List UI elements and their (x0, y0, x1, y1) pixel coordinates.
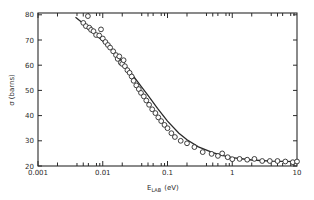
data-point (209, 152, 214, 157)
x-tick-label: 0.01 (95, 169, 111, 177)
y-axis-label: σ (barns) (8, 74, 16, 106)
x-tick-label: 10 (293, 169, 302, 177)
x-tick-label: 0.1 (162, 169, 173, 177)
plot-frame (38, 13, 297, 166)
data-point (147, 102, 152, 107)
data-point (275, 159, 280, 164)
data-point (267, 159, 272, 164)
data-point (131, 78, 136, 83)
data-point (178, 138, 183, 143)
data-point (260, 159, 265, 164)
data-point (117, 54, 122, 59)
y-tick-label: 70 (25, 37, 34, 45)
x-axis-label: ELAB(eV) (147, 184, 179, 193)
x-tick-label: 1 (230, 169, 234, 177)
data-point (237, 157, 242, 162)
data-point (86, 14, 91, 19)
cross-section-chart: 20304050607080 0.0010.010.1110 σ (barns)… (0, 0, 314, 200)
data-point (283, 159, 288, 164)
fit-line (76, 17, 298, 161)
data-point (220, 151, 225, 156)
y-axis: 20304050607080 (25, 11, 297, 170)
data-point (295, 159, 300, 164)
chart-svg: 20304050607080 0.0010.010.1110 σ (barns)… (0, 0, 314, 200)
data-point (99, 27, 104, 32)
fit-curve (76, 17, 298, 161)
data-point (252, 157, 257, 162)
x-axis: 0.0010.010.1110 (28, 13, 301, 177)
y-tick-label: 60 (25, 62, 34, 70)
y-tick-label: 80 (25, 11, 34, 19)
data-point (153, 111, 158, 116)
data-point (245, 157, 250, 162)
plot-border (38, 13, 297, 166)
data-point (192, 145, 197, 150)
data-point (165, 126, 170, 131)
data-point (200, 150, 205, 155)
y-tick-label: 50 (25, 87, 34, 95)
x-tick-label: 0.001 (28, 169, 48, 177)
data-point (225, 155, 230, 160)
y-tick-label: 30 (25, 137, 34, 145)
data-point (173, 135, 178, 140)
data-point (121, 58, 126, 63)
x-axis-label-subscript: LAB (151, 187, 161, 193)
data-point (185, 141, 190, 146)
x-axis-label-unit: (eV) (164, 184, 179, 192)
y-tick-label: 40 (25, 112, 34, 120)
data-point (230, 157, 235, 162)
